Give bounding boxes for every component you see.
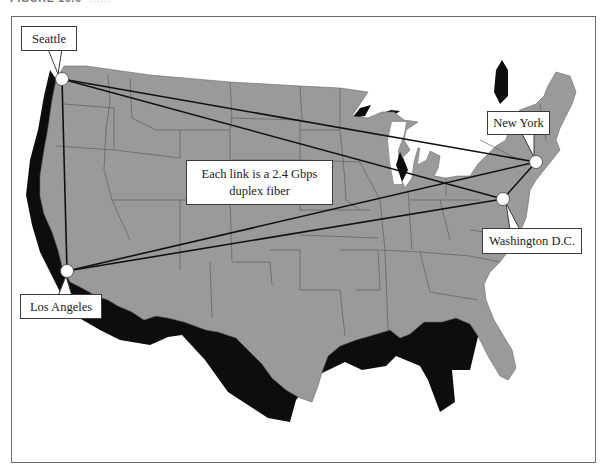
callout-washington-dc: Washington D.C. (482, 228, 582, 254)
label-los-angeles: Los Angeles (30, 299, 92, 315)
annotation-line-1: Each link is a 2.4 Gbps (202, 166, 318, 183)
callout-new-york: New York (487, 111, 550, 135)
label-washington-dc: Washington D.C. (489, 233, 575, 249)
callout-los-angeles: Los Angeles (20, 294, 102, 319)
node-new-york (530, 156, 543, 169)
callout-seattle: Seattle (21, 26, 77, 51)
annotation-line-2: duplex fiber (229, 183, 290, 200)
node-washington-dc (497, 193, 510, 206)
node-los-angeles (61, 265, 74, 278)
label-new-york: New York (493, 115, 544, 131)
label-seattle: Seattle (32, 31, 66, 47)
node-seattle (56, 73, 69, 86)
link-annotation: Each link is a 2.4 Gbps duplex fiber (186, 160, 333, 205)
